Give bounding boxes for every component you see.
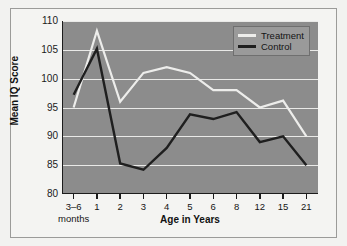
y-axis-tick-label: 95 [32, 103, 58, 113]
gridline [63, 165, 318, 166]
y-axis-tick-label: 85 [32, 160, 58, 170]
x-axis-tick-mark [166, 194, 168, 199]
legend-item: Treatment [238, 30, 304, 41]
x-axis-tick-label: 2 [118, 201, 123, 212]
gridline [63, 79, 318, 80]
x-axis-tick-label: 12 [255, 201, 266, 212]
x-axis-tick-label: 6 [211, 201, 216, 212]
x-axis-tick-label: 15 [278, 201, 289, 212]
y-axis-tick-label: 110 [32, 16, 58, 26]
chart-legend: TreatmentControl [233, 26, 310, 56]
legend-item: Control [238, 41, 304, 52]
y-axis-tick-label: 90 [32, 131, 58, 141]
x-axis-tick-label: 3–6 [66, 201, 82, 212]
legend-swatch [238, 45, 256, 49]
x-axis-tick-label: 4 [164, 201, 169, 212]
chart-figure: Mean IQ Score 80859095100105110 Treatmen… [0, 0, 347, 246]
x-axis-tick-mark [213, 194, 215, 199]
x-axis-tick-mark [282, 194, 284, 199]
gridline [63, 136, 318, 137]
legend-label: Control [261, 41, 292, 52]
x-axis-tick-label: 8 [234, 201, 239, 212]
x-axis-tick-label: 21 [301, 201, 312, 212]
y-axis-tick-label: 100 [32, 74, 58, 84]
x-axis-tick-mark [119, 194, 121, 199]
x-axis-tick-mark [236, 194, 238, 199]
legend-swatch [238, 34, 256, 37]
x-axis-tick-label: 3 [141, 201, 146, 212]
y-axis-ticks: 80859095100105110 [28, 0, 58, 246]
x-axis-tick-mark [259, 194, 261, 199]
y-axis-tick-label: 105 [32, 45, 58, 55]
x-axis-tick-mark [96, 194, 98, 199]
y-axis-title: Mean IQ Score [9, 56, 23, 125]
x-axis-tick-mark [189, 194, 191, 199]
x-axis-sub-label: months [58, 213, 89, 224]
y-axis-tick-label: 80 [32, 189, 58, 199]
gridline [63, 21, 318, 22]
x-axis-title: Age in Years [62, 214, 318, 225]
gridline [63, 108, 318, 109]
x-axis-tick-mark [73, 194, 75, 199]
x-axis-tick-mark [143, 194, 145, 199]
x-axis-tick-label: 1 [94, 201, 99, 212]
legend-label: Treatment [261, 30, 304, 41]
x-axis-tick-mark [306, 194, 308, 199]
x-axis-tick-label: 5 [187, 201, 192, 212]
